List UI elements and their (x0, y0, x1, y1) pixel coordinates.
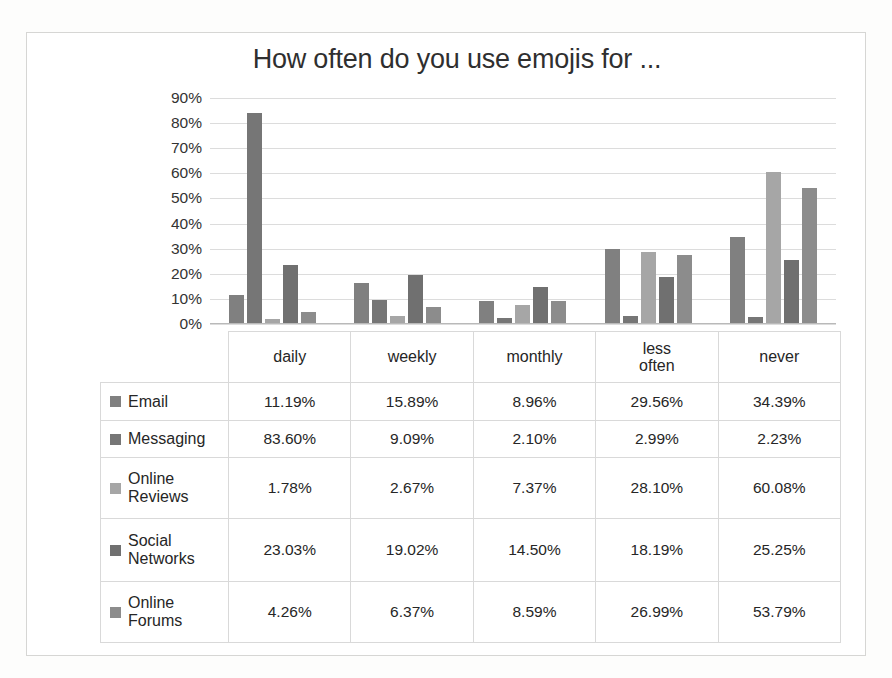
y-axis-tick-label: 50% (140, 189, 202, 207)
legend-inner: OnlineReviews (110, 470, 228, 505)
bar (659, 277, 674, 323)
legend-swatch-icon (110, 545, 121, 556)
table-cell-value: 19.02% (351, 519, 473, 582)
table-corner-cell (101, 332, 229, 383)
table-cell-value: 18.19% (596, 519, 718, 582)
y-axis-tick-label: 80% (140, 114, 202, 132)
scanned-page: How often do you use emojis for ... 90%8… (0, 0, 892, 678)
bar-group (210, 97, 335, 323)
bar (354, 283, 369, 323)
table-cell-value: 15.89% (351, 383, 473, 421)
bar (677, 255, 692, 323)
bar (515, 305, 530, 324)
table-cell-value: 60.08% (718, 458, 840, 519)
bar (641, 252, 656, 323)
table-cell-value: 14.50% (473, 519, 595, 582)
bar (748, 317, 763, 323)
bar-group (335, 97, 460, 323)
table-cell-value: 26.99% (596, 582, 718, 643)
bar (247, 113, 262, 323)
category-header-daily: daily (229, 332, 351, 383)
legend-item-messaging: Messaging (101, 421, 229, 458)
data-table: dailyweeklymonthlylessoftenneverEmail11.… (100, 331, 841, 643)
legend-item-online-forums: OnlineForums (101, 582, 229, 643)
legend-label: OnlineReviews (128, 470, 188, 505)
bar-group (711, 97, 836, 323)
y-axis-tick-label: 60% (140, 164, 202, 182)
page-title: How often do you use emojis for ... (0, 44, 892, 75)
legend-inner: SocialNetworks (110, 532, 228, 567)
table-cell-value: 7.37% (473, 458, 595, 519)
legend-label: SocialNetworks (128, 532, 195, 567)
table-row: Email11.19%15.89%8.96%29.56%34.39% (101, 383, 841, 421)
legend-label: Messaging (128, 430, 205, 448)
legend-inner: OnlineForums (110, 594, 228, 629)
table-cell-value: 25.25% (718, 519, 840, 582)
bar (265, 319, 280, 323)
bar (623, 316, 638, 324)
table-cell-value: 6.37% (351, 582, 473, 643)
table-cell-value: 2.99% (596, 421, 718, 458)
bar (551, 301, 566, 323)
table-cell-value: 2.10% (473, 421, 595, 458)
bar (283, 265, 298, 323)
table-row: OnlineForums4.26%6.37%8.59%26.99%53.79% (101, 582, 841, 643)
table-cell-value: 9.09% (351, 421, 473, 458)
bar-group (460, 97, 585, 323)
y-axis-tick-label: 70% (140, 139, 202, 157)
table-cell-value: 4.26% (229, 582, 351, 643)
table-cell-value: 34.39% (718, 383, 840, 421)
bar (497, 318, 512, 323)
bar (533, 287, 548, 323)
table-header-row: dailyweeklymonthlylessoftennever (101, 332, 841, 383)
table-row: OnlineReviews1.78%2.67%7.37%28.10%60.08% (101, 458, 841, 519)
table-cell-value: 83.60% (229, 421, 351, 458)
category-header-less-often: lessoften (596, 332, 718, 383)
bar (730, 237, 745, 323)
y-axis-tick-label: 30% (140, 240, 202, 258)
bar (229, 295, 244, 323)
table-cell-value: 8.96% (473, 383, 595, 421)
bar (605, 249, 620, 323)
table-row: Messaging83.60%9.09%2.10%2.99%2.23% (101, 421, 841, 458)
legend-item-online-reviews: OnlineReviews (101, 458, 229, 519)
category-header-weekly: weekly (351, 332, 473, 383)
bar (390, 316, 405, 323)
legend-label: OnlineForums (128, 594, 182, 629)
legend-swatch-icon (110, 483, 121, 494)
table-cell-value: 29.56% (596, 383, 718, 421)
table-cell-value: 23.03% (229, 519, 351, 582)
bar (766, 172, 781, 323)
legend-item-email: Email (101, 383, 229, 421)
bar (784, 260, 799, 323)
gridline (210, 324, 836, 325)
table-cell-value: 1.78% (229, 458, 351, 519)
table-row: SocialNetworks23.03%19.02%14.50%18.19%25… (101, 519, 841, 582)
table-cell-value: 2.23% (718, 421, 840, 458)
category-header-never: never (718, 332, 840, 383)
table-cell-value: 28.10% (596, 458, 718, 519)
legend-swatch-icon (110, 434, 121, 445)
bar (372, 300, 387, 323)
legend-swatch-icon (110, 396, 121, 407)
bar (426, 307, 441, 323)
legend-inner: Email (110, 393, 228, 411)
table-cell-value: 8.59% (473, 582, 595, 643)
y-axis-tick-label: 90% (140, 89, 202, 107)
table-cell-value: 53.79% (718, 582, 840, 643)
bar (408, 275, 423, 323)
legend-swatch-icon (110, 607, 121, 618)
y-axis-tick-label: 10% (140, 290, 202, 308)
y-axis: 90%80%70%60%50%40%30%20%10%0% (140, 98, 202, 324)
plot-area (210, 98, 836, 324)
table-cell-value: 11.19% (229, 383, 351, 421)
bar (802, 188, 817, 323)
y-axis-tick-label: 40% (140, 215, 202, 233)
table-body: dailyweeklymonthlylessoftenneverEmail11.… (101, 332, 841, 643)
legend-label: Email (128, 393, 168, 411)
legend-item-social-networks: SocialNetworks (101, 519, 229, 582)
bar-group (586, 97, 711, 323)
chart-plot: 90%80%70%60%50%40%30%20%10%0% (140, 98, 840, 330)
category-header-monthly: monthly (473, 332, 595, 383)
bar (479, 301, 494, 323)
